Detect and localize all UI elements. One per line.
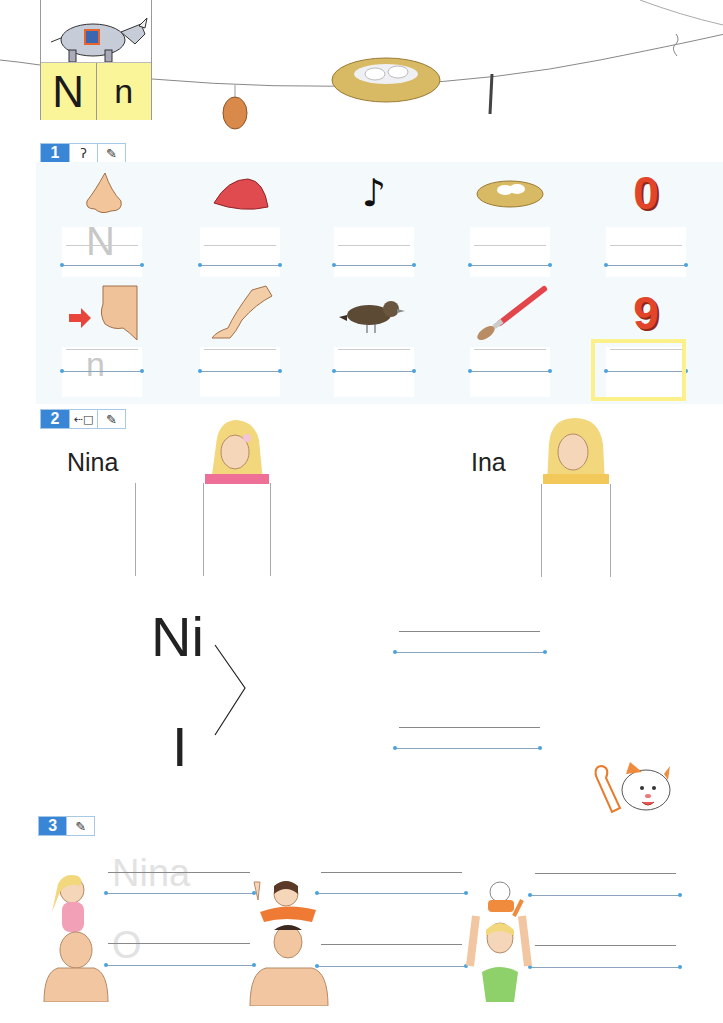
chin-icon: [62, 285, 142, 341]
nest-icon: [470, 165, 550, 221]
writing-field[interactable]: [200, 347, 280, 397]
connector-bracket: [210, 640, 250, 740]
writing-line[interactable]: [535, 945, 676, 946]
girl-on-shoulders-icon: [38, 872, 110, 1002]
red-cap-icon: [200, 165, 280, 221]
writing-baseline[interactable]: [106, 965, 254, 966]
exercise-2-header: 2 ⇠□ ✎: [40, 409, 126, 429]
trace-letter: n: [86, 345, 105, 384]
writing-line[interactable]: [321, 872, 462, 873]
writing-field[interactable]: N: [62, 227, 142, 277]
letter-card: N n: [40, 0, 152, 120]
picture-cell-nose: N: [62, 165, 142, 277]
writing-line[interactable]: [399, 727, 540, 728]
writing-line[interactable]: [108, 943, 250, 944]
pencil-icon: ✎: [97, 144, 125, 162]
writing-baseline[interactable]: [530, 895, 680, 896]
writing-field[interactable]: [334, 227, 414, 277]
name-ina: Ina: [471, 448, 506, 477]
trace-letter-o: O: [112, 924, 142, 967]
writing-line[interactable]: [399, 631, 540, 632]
picture-cell-cap: [200, 165, 280, 277]
syllable-i: I: [172, 714, 188, 779]
nina-drop-box[interactable]: [203, 483, 271, 576]
leg-icon: [200, 285, 280, 341]
ina-portrait-icon: [541, 414, 611, 484]
picture-cell-leg: [200, 285, 280, 397]
picture-cell-zero: 0: [606, 165, 686, 277]
highlighted-answer-box: [591, 339, 686, 401]
lowercase-letter: n: [97, 63, 152, 120]
writing-field[interactable]: [606, 227, 686, 277]
bird-icon: [334, 285, 414, 341]
picture-cell-bird: [334, 285, 414, 397]
exercise-1-header: 1 ʔ ✎: [40, 143, 126, 163]
picture-cell-note: ♪: [334, 165, 414, 277]
ear-icon: ʔ: [69, 144, 97, 162]
nose-icon: [62, 165, 142, 221]
trace-word-nina: Nina: [112, 852, 190, 895]
woman-with-cat-icon: [464, 876, 534, 1006]
ina-drop-box[interactable]: [541, 484, 611, 577]
trace-letter: N: [86, 219, 115, 264]
child-on-shoulders-icon: [246, 876, 332, 1006]
writing-field[interactable]: n: [62, 347, 142, 397]
uppercase-letter: N: [41, 63, 97, 120]
exercise-number: 3: [39, 817, 66, 835]
exercise-3-header: 3 ✎: [38, 816, 95, 836]
writing-baseline[interactable]: [317, 966, 466, 967]
music-note-icon: ♪: [334, 165, 414, 221]
rhino-icon: [41, 0, 151, 62]
connect-icon: ⇠□: [69, 410, 97, 428]
nina-portrait-icon: [203, 418, 271, 484]
picture-cell-paintbrush: [470, 285, 550, 397]
writing-field[interactable]: [200, 227, 280, 277]
pencil-icon: ✎: [97, 410, 125, 428]
number-nine: 9: [633, 286, 659, 340]
writing-line[interactable]: [108, 872, 250, 873]
syllable-ni: Ni: [151, 604, 204, 669]
writing-line[interactable]: [321, 944, 462, 945]
writing-baseline[interactable]: [530, 967, 680, 968]
writing-baseline[interactable]: [106, 893, 254, 894]
divider: [135, 483, 136, 576]
pencil-icon: ✎: [66, 817, 94, 835]
writing-field[interactable]: [334, 347, 414, 397]
name-nina: Nina: [67, 448, 118, 477]
cat-mascot-icon: [590, 760, 680, 816]
picture-cell-nest: [470, 165, 550, 277]
writing-line[interactable]: [535, 873, 676, 874]
exercise-number: 1: [41, 144, 69, 162]
writing-field[interactable]: [470, 227, 550, 277]
writing-field[interactable]: [470, 347, 550, 397]
writing-baseline[interactable]: [395, 652, 545, 653]
paintbrush-icon: [470, 285, 550, 341]
picture-cell-chin: n: [62, 285, 142, 397]
exercise-number: 2: [41, 410, 69, 428]
writing-baseline[interactable]: [395, 748, 540, 749]
number-zero: 0: [633, 166, 659, 220]
writing-baseline[interactable]: [317, 893, 466, 894]
